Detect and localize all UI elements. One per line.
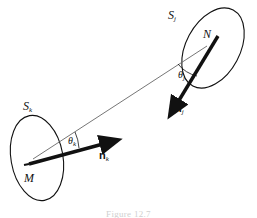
label-normal-k-text: n bbox=[99, 149, 106, 161]
label-surface-k: Sk bbox=[23, 100, 32, 114]
diagram-canvas bbox=[0, 0, 257, 218]
surface-ellipse-j bbox=[169, 0, 257, 99]
label-surface-j-sub: j bbox=[174, 15, 176, 23]
surface-ellipse-k bbox=[4, 111, 70, 205]
label-normal-j: nj bbox=[175, 103, 184, 116]
label-normal-k: nk bbox=[99, 150, 109, 163]
label-theta-k: θk bbox=[68, 136, 76, 148]
label-surface-k-sub: k bbox=[29, 106, 32, 114]
label-theta-k-sub: k bbox=[73, 140, 76, 148]
figure-caption: Figure 12.7 bbox=[0, 209, 257, 218]
figure-container: Sk Sj M N θk θj nk nj Figure 12.7 bbox=[0, 0, 257, 218]
label-point-m: M bbox=[24, 172, 34, 184]
normal-vector-k-tail bbox=[24, 164, 29, 165]
label-surface-j: Sj bbox=[168, 9, 176, 23]
label-normal-j-text: n bbox=[175, 102, 182, 114]
label-theta-j: θj bbox=[178, 70, 185, 82]
label-point-n: N bbox=[203, 28, 211, 40]
label-theta-j-sub: j bbox=[183, 74, 185, 82]
label-normal-k-sub: k bbox=[106, 155, 109, 163]
label-normal-j-sub: j bbox=[182, 108, 184, 116]
